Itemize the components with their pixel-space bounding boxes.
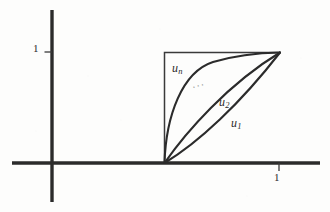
curve-label-un-sub: n — [178, 66, 182, 76]
curve-label-un: un — [172, 62, 182, 76]
curve-label-u2-sub: 2 — [225, 100, 229, 110]
figure-canvas — [0, 0, 330, 212]
y-axis-tick-label: 1 — [33, 43, 39, 54]
curve-label-u1: u1 — [231, 117, 241, 131]
curve-label-u2: u2 — [219, 96, 229, 110]
math-figure: 1 1 un u2 u1 ... — [0, 0, 330, 212]
x-axis-tick-label: 1 — [274, 172, 280, 183]
curve-label-u1-sub: 1 — [237, 121, 241, 131]
